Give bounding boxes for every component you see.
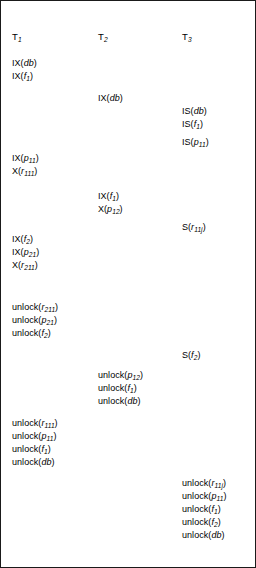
lock-operation: IS(f1) <box>182 119 203 129</box>
lock-operation: unlock(db) <box>182 530 225 540</box>
resource-name: db <box>194 106 204 116</box>
resource-name: db <box>24 58 34 68</box>
lock-operation: X(p12) <box>98 204 123 214</box>
resource-subscript: 111 <box>24 170 34 177</box>
column-header-t3: T3 <box>182 31 192 42</box>
lock-operation: unlock(r111) <box>12 418 58 428</box>
resource-subscript: 12 <box>132 374 139 381</box>
resource-subscript: 11 <box>46 435 53 442</box>
lock-operation: unlock(f2) <box>182 517 221 527</box>
resource-subscript: 11 <box>216 495 223 502</box>
lock-operation: unlock(db) <box>12 457 55 467</box>
lock-operation: unlock(p12) <box>98 370 143 380</box>
column-header-t1: T1 <box>12 31 22 42</box>
lock-operation: IX(f1) <box>12 71 33 81</box>
lock-operation: IX(db) <box>98 93 123 103</box>
column-header-t2: T2 <box>98 31 108 42</box>
resource-subscript: 111 <box>44 422 54 429</box>
lock-operation: unlock(f2) <box>12 328 51 338</box>
resource-subscript: 1 <box>44 448 48 455</box>
resource-subscript: 11j <box>194 226 202 233</box>
resource-name: db <box>41 457 51 467</box>
lock-operation: IX(p21) <box>12 247 39 257</box>
resource-subscript: 11j <box>214 482 222 489</box>
resource-subscript: 11 <box>199 141 206 148</box>
transaction-column-t2: T2IX(db)IX(f1)X(p12)unlock(p12)unlock(f1… <box>98 1 182 567</box>
lock-operation: unlock(f1) <box>98 383 137 393</box>
resource-name: db <box>127 396 137 406</box>
lock-operation: IS(p11) <box>182 137 209 147</box>
lock-operation: unlock(p11) <box>182 491 226 501</box>
resource-subscript: 1 <box>26 75 30 82</box>
lock-operation: unlock(db) <box>98 396 141 406</box>
lock-operation: IX(f2) <box>12 234 33 244</box>
lock-operation: IX(p11) <box>12 153 39 163</box>
transaction-column-t1: T1IX(db)IX(f1)IX(p11)X(r111)IX(f2)IX(p21… <box>12 1 100 567</box>
resource-name: p <box>194 137 199 147</box>
resource-subscript: 12 <box>112 208 119 215</box>
resource-subscript: 2 <box>214 521 218 528</box>
resource-name: p <box>24 153 29 163</box>
resource-name: p <box>24 247 29 257</box>
transaction-lock-schedule-figure: T1IX(db)IX(f1)IX(p11)X(r111)IX(f2)IX(p21… <box>0 0 256 568</box>
transaction-column-t3: T3IS(db)IS(f1)IS(p11)S(r11j)S(f2)unlock(… <box>182 1 256 567</box>
lock-operation: unlock(r211) <box>12 302 58 312</box>
lock-operation: unlock(r11j) <box>182 478 226 488</box>
resource-name: db <box>110 93 120 103</box>
resource-subscript: 21 <box>29 251 36 258</box>
lock-operation: S(f2) <box>182 350 200 360</box>
lock-operation: X(r211) <box>12 260 38 270</box>
lock-operation: unlock(f1) <box>182 504 221 514</box>
lock-operation: unlock(f1) <box>12 444 51 454</box>
resource-subscript: 1 <box>214 508 218 515</box>
resource-subscript: 21 <box>46 319 53 326</box>
resource-subscript: 2 <box>26 238 30 245</box>
lock-operation: X(r111) <box>12 166 37 176</box>
resource-subscript: 211 <box>24 264 35 271</box>
resource-subscript: 2 <box>44 332 48 339</box>
resource-subscript: 1 <box>112 195 116 202</box>
resource-name: db <box>211 530 221 540</box>
resource-subscript: 1 <box>196 123 200 130</box>
lock-operation: S(r11j) <box>182 222 206 232</box>
resource-subscript: 211 <box>44 306 55 313</box>
lock-operation: unlock(p21) <box>12 315 57 325</box>
lock-operation: IX(f1) <box>98 191 119 201</box>
resource-subscript: 11 <box>29 157 36 164</box>
lock-operation: IS(db) <box>182 106 207 116</box>
lock-operation: IX(db) <box>12 58 37 68</box>
lock-operation: unlock(p11) <box>12 431 56 441</box>
resource-subscript: 2 <box>194 354 198 361</box>
resource-subscript: 1 <box>130 387 134 394</box>
